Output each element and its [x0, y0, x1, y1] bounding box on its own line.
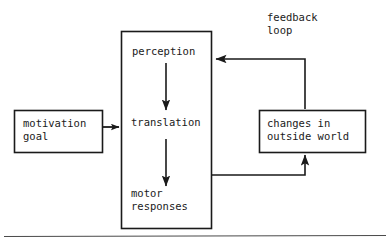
- translation-label: translation: [131, 116, 201, 129]
- changes-outside-world-line1: changes in: [267, 117, 330, 130]
- perception-label: perception: [132, 45, 195, 58]
- motivation-goal-line1: motivation: [23, 117, 86, 130]
- diagram-canvas: motivation goal perception translation m…: [0, 0, 390, 244]
- motor-responses-line1: motor: [131, 187, 163, 200]
- motor-responses-line2: responses: [131, 200, 188, 213]
- changes-outside-world-line2: outside world: [267, 130, 349, 143]
- arrow-changes-to-perception-feedback: [216, 59, 305, 109]
- feedback-loop-line1: feedback: [267, 11, 318, 24]
- page-rule: [4, 236, 386, 237]
- motivation-goal-line2: goal: [23, 130, 48, 143]
- arrow-central-to-changes: [212, 155, 305, 175]
- feedback-loop-line2: loop: [267, 24, 292, 37]
